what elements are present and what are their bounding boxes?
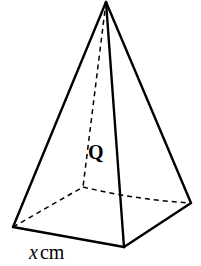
drawing-background (0, 0, 201, 266)
pyramid-figure: Q xcm (0, 0, 201, 266)
base-length-unit: cm (40, 241, 64, 263)
vertex-label-q: Q (88, 142, 104, 162)
pyramid-drawing (0, 0, 201, 266)
base-length-label: xcm (29, 242, 64, 262)
base-length-variable: x (29, 241, 40, 263)
